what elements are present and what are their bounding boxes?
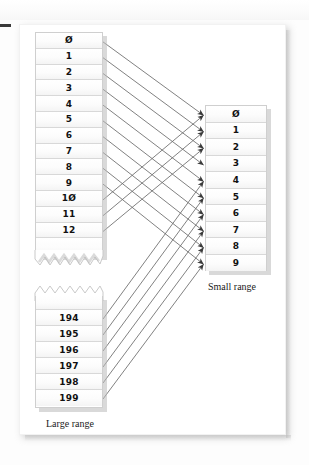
small-range-cell: 7 [206, 222, 266, 239]
page-margin-dash [0, 24, 11, 27]
scanned-page: Ø1234567891Ø1112 194195196197198199 Larg… [0, 0, 309, 465]
large-range-top-cell: 6 [36, 128, 102, 144]
large-range-bottom-cell: 198 [36, 374, 102, 390]
large-range-bottom-cell: 194 [36, 310, 102, 326]
small-range-cell: 4 [206, 172, 266, 189]
large-range-top-cell: 3 [36, 80, 102, 96]
large-range-top-cell: 8 [36, 159, 102, 175]
large-range-top-cell: 9 [36, 175, 102, 191]
large-range-bottom-cell: 196 [36, 342, 102, 358]
large-range-top-cell: 2 [36, 65, 102, 81]
figure-panel-shadow-right [286, 30, 291, 438]
small-range-table: Ø123456789 [205, 105, 267, 271]
large-range-bottom-blank-cell [36, 296, 102, 310]
torn-edge-large-top-bottom [33, 250, 109, 272]
scan-top-edge [0, 0, 309, 20]
large-range-top-cell: 7 [36, 144, 102, 160]
large-range-bottom-cell: 195 [36, 326, 102, 342]
small-range-cell: 2 [206, 139, 266, 156]
large-range-top-cell: 11 [36, 207, 102, 223]
large-range-bottom-table: 194195196197198199 [35, 296, 103, 408]
small-range-caption: Small range [208, 281, 256, 292]
small-range-cell: Ø [206, 106, 266, 123]
small-range-cell: 9 [206, 255, 266, 272]
small-range-cell: 1 [206, 123, 266, 140]
large-range-top-cell: 12 [36, 223, 102, 239]
large-range-caption: Large range [46, 418, 94, 429]
large-range-top-table: Ø1234567891Ø1112 [35, 32, 103, 256]
large-range-bottom-cell: 199 [36, 390, 102, 406]
large-range-top-cell: 1 [36, 49, 102, 65]
figure-panel-shadow-bottom [25, 435, 291, 441]
small-range-cell: 6 [206, 205, 266, 222]
small-range-cell: 5 [206, 189, 266, 206]
large-range-top-cell: 5 [36, 112, 102, 128]
large-range-top-cell: Ø [36, 33, 102, 49]
large-range-top-cell: 4 [36, 96, 102, 112]
small-range-cell: 3 [206, 156, 266, 173]
small-range-cell: 8 [206, 238, 266, 255]
large-range-bottom-cell: 197 [36, 358, 102, 374]
large-range-top-cell: 1Ø [36, 191, 102, 207]
